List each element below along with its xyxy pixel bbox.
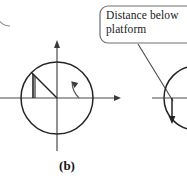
left-x-axis-arrowhead: [114, 95, 121, 101]
callout-leader-line: [138, 44, 173, 101]
left-diagram-group: [0, 40, 121, 151]
adjacent-callout-remnant: [0, 0, 10, 26]
callout-label: Distance below platform: [106, 9, 187, 36]
panel-label: (b): [45, 158, 89, 174]
left-y-axis-arrowhead: [54, 40, 60, 48]
distance-below-arrowhead: [169, 116, 176, 124]
figure-panel-b: Distance below platform (b): [0, 0, 187, 187]
